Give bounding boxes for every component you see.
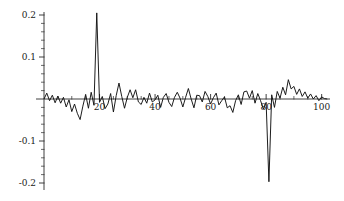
plot-svg: 0.20.1-0.1-0.2 20406080100 bbox=[0, 0, 344, 201]
chart-figure: 0.20.1-0.1-0.2 20406080100 bbox=[0, 0, 344, 201]
data-series-line bbox=[44, 13, 327, 182]
y-tick-label: -0.2 bbox=[19, 178, 36, 188]
x-axis-group: 20406080100 bbox=[36, 94, 331, 112]
y-tick-label: 0.1 bbox=[22, 52, 36, 62]
x-axis-tick-labels: 20406080100 bbox=[94, 102, 331, 112]
y-axis-tick-labels: 0.20.1-0.1-0.2 bbox=[19, 10, 36, 188]
x-tick-label: 100 bbox=[313, 102, 330, 112]
y-tick-label: -0.1 bbox=[19, 136, 36, 146]
y-axis-group: 0.20.1-0.1-0.2 bbox=[19, 10, 45, 190]
y-tick-label: 0.2 bbox=[22, 10, 36, 20]
